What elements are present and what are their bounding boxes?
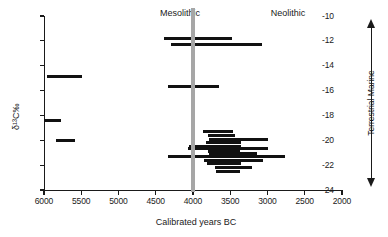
x-tick (81, 190, 82, 195)
x-tick (304, 190, 305, 195)
date-range-bar (208, 134, 236, 137)
y-tick (40, 65, 45, 66)
chart-figure: Mesolithic Neolithic δ¹³C‰ Calibrated ye… (0, 0, 388, 237)
date-range-bar (216, 170, 240, 173)
y-tick (40, 140, 45, 141)
date-range-bar (171, 43, 262, 46)
arrow-up-icon (367, 19, 375, 28)
x-axis-title: Calibrated years BC (156, 218, 237, 227)
date-range-bar (206, 141, 241, 144)
x-tick (267, 190, 268, 195)
y-axis-title: δ¹³C‰ (12, 103, 21, 130)
y-tick-label: -10 (322, 12, 334, 21)
y-tick (40, 165, 45, 166)
x-tick (118, 190, 119, 195)
x-tick-label: 5500 (72, 197, 91, 206)
x-tick-label: 2500 (295, 197, 314, 206)
x-tick (341, 190, 342, 195)
y-tick (40, 15, 45, 16)
date-range-bar (44, 119, 61, 122)
date-range-bar (164, 37, 232, 40)
x-tick-label: 5000 (109, 197, 128, 206)
y-tick-label: -12 (322, 36, 334, 45)
date-range-bar (168, 155, 285, 158)
arrow-down-icon (367, 178, 375, 187)
y-tick-label: -16 (322, 86, 334, 95)
y-tick-label: -22 (322, 161, 334, 170)
date-range-bar (207, 162, 241, 165)
period-divider-line (191, 8, 195, 192)
y-tick (40, 115, 45, 116)
y-tick-label: -24 (322, 186, 334, 195)
y-tick-label: -20 (322, 136, 334, 145)
x-tick-label: 2000 (333, 197, 352, 206)
x-tick-label: 3000 (258, 197, 277, 206)
x-tick-label: 3500 (221, 197, 240, 206)
gradient-label: Terrestrial Marine (367, 70, 376, 136)
plot-area: -10-12-14-16-18-20-22-24 600055005000450… (44, 16, 342, 190)
x-tick-label: 4500 (146, 197, 165, 206)
terrestrial-marine-axis: Terrestrial Marine (358, 18, 384, 188)
x-tick (230, 190, 231, 195)
date-range-bar (209, 138, 269, 141)
x-tick-label: 4000 (184, 197, 203, 206)
y-tick-label: -18 (322, 111, 334, 120)
x-tick (43, 190, 44, 195)
x-tick (155, 190, 156, 195)
y-tick-label: -14 (322, 61, 334, 70)
y-tick (40, 90, 45, 91)
y-tick (40, 40, 45, 41)
y-axis-line (44, 16, 45, 190)
date-range-bar (204, 159, 263, 162)
y-axis-title-text: δ¹³C‰ (11, 103, 21, 130)
date-range-bar (203, 130, 234, 133)
date-range-bar (56, 139, 75, 142)
x-tick-label: 6000 (35, 197, 54, 206)
date-range-bar (215, 166, 252, 169)
date-range-bar (47, 75, 82, 78)
